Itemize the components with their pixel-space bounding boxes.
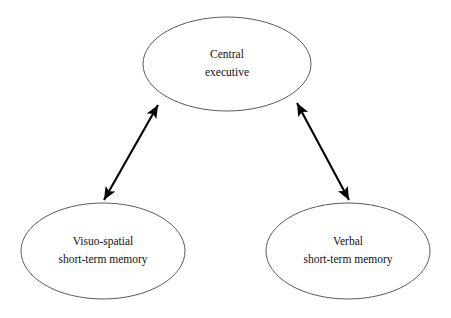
- node-central-executive-shape: [143, 17, 311, 111]
- node-verbal-label-line2: short-term memory: [303, 253, 392, 266]
- diagram-canvas: Central executive Visuo-spatial short-te…: [0, 0, 451, 318]
- node-verbal-short-term-memory-shape: [266, 203, 430, 299]
- connector-group: [104, 103, 349, 200]
- connector-central-executive-verbal: [297, 103, 349, 200]
- node-visuo-spatial-short-term-memory-shape: [21, 203, 185, 299]
- node-verbal-label-line1: Verbal: [333, 235, 363, 247]
- node-central-executive[interactable]: Central executive: [143, 17, 311, 111]
- node-verbal-short-term-memory[interactable]: Verbal short-term memory: [266, 203, 430, 299]
- connector-central-executive-visuo-spatial: [104, 105, 158, 200]
- working-memory-diagram: Central executive Visuo-spatial short-te…: [0, 0, 451, 318]
- node-visuo-spatial-label-line2: short-term memory: [58, 253, 147, 266]
- node-central-executive-label-line1: Central: [210, 48, 244, 60]
- node-visuo-spatial-label-line1: Visuo-spatial: [73, 235, 134, 248]
- node-central-executive-label-line2: executive: [205, 66, 249, 78]
- node-visuo-spatial-short-term-memory[interactable]: Visuo-spatial short-term memory: [21, 203, 185, 299]
